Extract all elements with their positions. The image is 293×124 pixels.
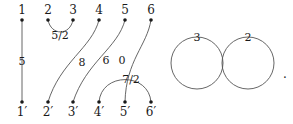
bottom-node-label-6: 6′ bbox=[146, 106, 156, 118]
top-node-dot-1 bbox=[20, 18, 24, 22]
arc-4prime-to-6prime-label: 7/2 bbox=[122, 74, 140, 85]
bottom-node-label-1: 1′ bbox=[17, 106, 27, 118]
top-node-label-2: 2 bbox=[44, 4, 52, 16]
strand-4-to-2prime-label: 8 bbox=[79, 57, 86, 68]
strand-1-to-1prime-label: 5 bbox=[19, 56, 26, 67]
bottom-node-label-3: 3′ bbox=[68, 106, 78, 118]
strand-paths-group bbox=[22, 20, 151, 102]
bottom-node-label-4: 4′ bbox=[94, 106, 104, 118]
top-node-dot-5 bbox=[123, 18, 127, 22]
loop-left bbox=[171, 37, 223, 89]
bottom-node-label-5: 5′ bbox=[120, 106, 130, 118]
loop-right-label: 2 bbox=[245, 32, 252, 43]
top-node-label-5: 5 bbox=[121, 4, 129, 16]
loop-circles-group bbox=[171, 37, 274, 89]
strand-5-to-3prime-label: 6 bbox=[103, 55, 110, 66]
top-node-dot-3 bbox=[71, 18, 75, 22]
arc-2-to-3-label: 5/2 bbox=[51, 30, 69, 41]
top-node-dot-4 bbox=[97, 18, 101, 22]
top-node-dot-2 bbox=[46, 18, 50, 22]
bottom-node-dot-4 bbox=[97, 100, 101, 104]
node-dots-group bbox=[20, 18, 153, 104]
top-node-label-1: 1 bbox=[18, 4, 26, 16]
strand-6-to-5prime-label: 0 bbox=[119, 55, 126, 66]
top-node-label-4: 4 bbox=[95, 4, 103, 16]
bottom-node-dot-6 bbox=[149, 100, 153, 104]
bottom-node-dot-5 bbox=[123, 100, 127, 104]
top-node-label-3: 3 bbox=[69, 4, 77, 16]
bottom-node-dot-3 bbox=[71, 100, 75, 104]
loop-left-label: 3 bbox=[194, 32, 201, 43]
bottom-node-dot-2 bbox=[46, 100, 50, 104]
bottom-node-dot-1 bbox=[20, 100, 24, 104]
trailing-period: . bbox=[283, 68, 287, 80]
top-node-label-6: 6 bbox=[147, 4, 155, 16]
bottom-node-label-2: 2′ bbox=[43, 106, 53, 118]
top-node-dot-6 bbox=[149, 18, 153, 22]
loop-right bbox=[222, 37, 274, 89]
strand-diagram: 1234561′2′3′4′5′6′55/28607/232 . bbox=[0, 0, 293, 124]
